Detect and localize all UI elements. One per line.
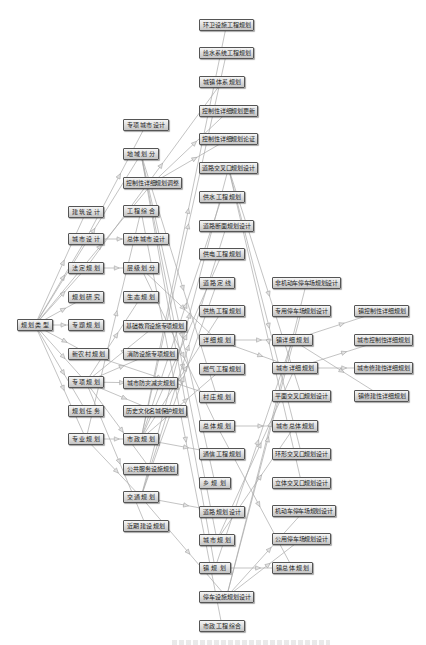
node-detailed-planning: 详细规划 [199, 334, 235, 346]
edge-arrow-icon [114, 437, 119, 441]
edge-arrow-icon [342, 366, 347, 370]
edge-arrow-icon [266, 291, 272, 297]
node-master-planning: 总体规划 [199, 420, 235, 432]
edge-line [86, 297, 141, 382]
edge-arrow-icon [265, 562, 272, 569]
node-town-master-plan: 镇总体规划 [272, 562, 313, 574]
node-special-urban-design: 专项城市设计 [123, 119, 169, 131]
node-planning-tasks: 规划任务 [68, 405, 104, 417]
edge-arrow-icon [116, 459, 122, 465]
edge-arrow-icon [121, 395, 127, 401]
edge-arrow-icon [62, 338, 68, 344]
edge-arrow-icon [113, 332, 119, 339]
node-road-alignment: 道路定线 [199, 277, 235, 289]
node-statutory-planning: 法定规划 [68, 262, 104, 274]
figure-caption-cutoff [172, 640, 330, 645]
edge-arrow-icon [183, 445, 189, 450]
node-architectural-design: 建筑设计 [68, 206, 104, 218]
node-thematic-planning: 专题规划 [68, 319, 104, 331]
node-regulatory-plan-review: 控制性详细规划论证 [199, 133, 258, 145]
node-city-planning: 城市规划 [199, 534, 235, 546]
edge-arrow-icon [258, 424, 263, 428]
node-water-supply-system-plan: 给水系统工程规划 [199, 47, 254, 59]
edge-line [86, 382, 151, 469]
edge-arrow-icon [266, 323, 271, 329]
node-heating-supply-plan: 供热工程规划 [199, 305, 245, 317]
edge-arrow-icon [60, 306, 67, 312]
edge-arrow-icon [60, 259, 66, 265]
edge-arrow-icon [339, 321, 345, 327]
node-professional-planning: 专业规划 [68, 433, 104, 445]
node-regulatory-plan-adjustment: 控制性详细规划调整 [123, 177, 182, 189]
node-basic-education-facilities-plan: 基础教育设施专项规划 [123, 320, 187, 332]
node-parking-facilities-design: 停车设施规划设计 [199, 591, 254, 603]
edge-layer [0, 0, 426, 645]
node-township-planning: 乡规划 [199, 477, 231, 489]
node-town-regulatory-plan: 镇控制性详细规划 [354, 305, 409, 317]
node-new-countryside-planning: 新农村规划 [68, 348, 109, 360]
edge-arrow-icon [185, 208, 190, 214]
node-interchange-design: 立体交叉口规划设计 [272, 477, 331, 489]
node-dedicated-parking-design: 专用停车场规划设计 [272, 305, 331, 317]
node-hierarchy-division: 层级划分 [123, 262, 159, 274]
node-town-planning: 镇规划 [199, 562, 231, 574]
edge-line [229, 168, 302, 483]
node-town-detailed-plan: 镇详细规划 [272, 334, 313, 346]
edge-line [35, 325, 86, 411]
node-water-supply-plan: 供水工程规划 [199, 191, 245, 203]
node-motor-parking-design: 机动车停车场规划设计 [272, 505, 336, 517]
node-near-term-construction-plan: 近期建设规划 [123, 520, 169, 532]
node-gas-supply-plan: 燃气工程规划 [199, 363, 245, 375]
edge-line [89, 354, 218, 397]
edge-arrow-icon [183, 437, 188, 443]
node-municipal-engineering-integration: 市政工程综合 [199, 620, 245, 632]
node-power-supply-plan: 供电工程规划 [199, 248, 245, 260]
node-planning-research: 规划研究 [68, 291, 104, 303]
node-non-motor-parking-design: 非机动车停车场规划设计 [272, 277, 341, 289]
node-sanitation-facilities-plan: 环卫设施工程规划 [199, 19, 254, 31]
edge-arrow-icon [257, 338, 262, 342]
node-engineering-integration: 工程综合 [123, 205, 159, 217]
node-fire-facilities-plan: 消防设施专项规划 [123, 348, 178, 360]
edge-arrow-icon [117, 237, 122, 241]
node-public-service-facilities-plan: 公共服务设施规划 [123, 463, 178, 475]
node-village-planning: 村庄规划 [199, 391, 235, 403]
node-historic-city-conservation-plan: 历史文化名城保护规划 [123, 405, 187, 417]
edge-arrow-icon [257, 353, 263, 359]
node-disaster-prevention-plan: 城市防灾减灾规划 [123, 377, 178, 389]
edge-arrow-icon [185, 344, 191, 350]
node-city-detailed-plan: 城市详细规划 [272, 362, 318, 374]
node-municipal-planning: 市政规划 [123, 433, 159, 445]
node-town-site-plan: 镇修建性详细规划 [354, 390, 409, 402]
edge-arrow-icon [183, 503, 189, 508]
edge-arrow-icon [60, 369, 66, 376]
edge-arrow-icon [265, 436, 271, 442]
edge-arrow-icon [114, 310, 119, 316]
edge-arrow-icon [341, 350, 347, 356]
node-regulatory-plan-update: 控制性详细规划更新 [199, 105, 258, 117]
edge-arrow-icon [60, 385, 66, 391]
node-ecological-planning: 生态规划 [123, 291, 159, 303]
ontology-diagram: 规划类型 建筑设计 城市设计 法定规划 规划研究 专题规划 新农村规划 专项规划… [0, 0, 426, 645]
edge-arrow-icon [114, 266, 119, 270]
node-urban-design: 城市设计 [68, 233, 104, 245]
node-city-regulatory-plan: 城市控制性详细规划 [354, 334, 413, 346]
node-urban-system-plan: 城镇体系规划 [199, 76, 245, 88]
edge-arrow-icon [256, 501, 262, 507]
edge-arrow-icon [116, 173, 122, 179]
node-telecom-plan: 通信工程规划 [199, 448, 245, 460]
node-overall-urban-design: 总体城市设计 [123, 233, 169, 245]
node-transportation-planning: 交通规划 [123, 491, 159, 503]
edge-arrow-icon [61, 323, 66, 327]
node-regional-division: 地域划分 [123, 148, 159, 160]
node-city-site-plan: 城市修建性详细规划 [354, 362, 413, 374]
node-road-design: 道路规划设计 [199, 506, 245, 518]
node-road-section-design: 道路断面规划设计 [199, 220, 254, 232]
node-at-grade-intersection-design: 平面交叉口规划设计 [272, 390, 331, 402]
node-city-master-plan: 城市总体规划 [272, 420, 318, 432]
edge-arrow-icon [256, 566, 261, 570]
node-roundabout-design: 环形交叉口规划设计 [272, 448, 331, 460]
node-intersection-design: 道路交叉口规划设计 [199, 162, 258, 174]
edge-arrow-icon [158, 162, 165, 169]
edge-arrow-icon [180, 285, 186, 291]
